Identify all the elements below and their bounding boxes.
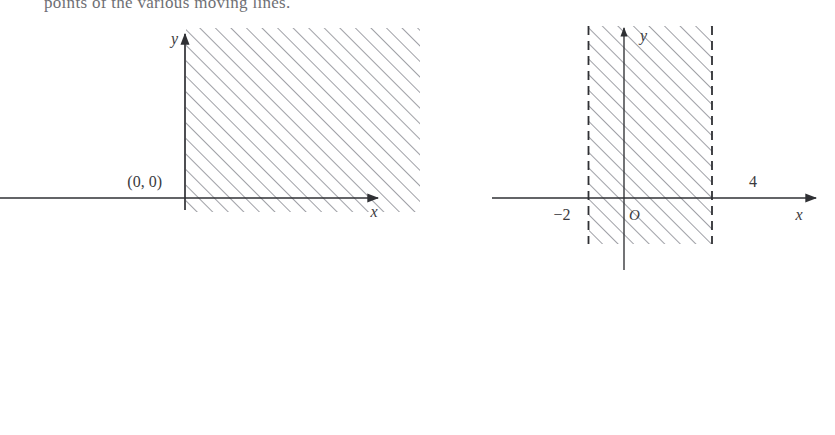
- right-graph: −2 4 O y x: [492, 26, 816, 270]
- right-origin-label: O: [629, 207, 640, 223]
- left-graph: (0, 0) y x: [0, 28, 420, 220]
- right-tick-label-minus-2: −2: [553, 206, 570, 223]
- right-x-axis-label: x: [794, 206, 802, 223]
- left-y-axis-label: y: [169, 30, 179, 48]
- right-tick-label-4: 4: [749, 173, 757, 190]
- right-shaded-region: [589, 26, 712, 244]
- right-y-axis-label: y: [638, 27, 648, 45]
- figure-root: points of the various moving lines. (0, …: [0, 0, 835, 435]
- graphs-svg: (0, 0) y x −2 4 O y x: [0, 0, 835, 435]
- left-x-axis-label: x: [369, 203, 377, 220]
- left-origin-point-label: (0, 0): [127, 173, 162, 191]
- left-shaded-region: [186, 28, 420, 212]
